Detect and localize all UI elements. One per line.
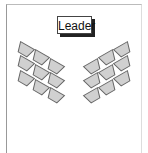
seat-right bbox=[99, 80, 118, 97]
seat-left bbox=[16, 71, 35, 88]
seat-right bbox=[114, 42, 133, 59]
seat-left bbox=[16, 56, 35, 73]
seat-right bbox=[114, 56, 133, 73]
seat-left bbox=[16, 42, 35, 59]
seating-area bbox=[0, 0, 148, 153]
seat-left bbox=[31, 80, 50, 97]
seat-right bbox=[114, 71, 133, 88]
seat-left bbox=[46, 88, 65, 105]
seat-right bbox=[84, 88, 103, 105]
